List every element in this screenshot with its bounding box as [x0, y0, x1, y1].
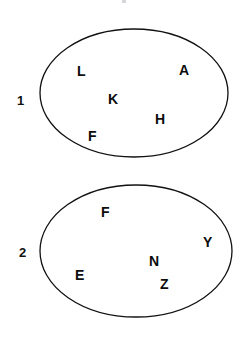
set-1-member-h: H [155, 112, 165, 126]
set-1-member-a: A [179, 63, 189, 77]
set-2-member-e: E [75, 268, 84, 282]
set-1-label: 1 [17, 94, 24, 107]
set-2-outline [40, 185, 232, 317]
set-1-member-f: F [88, 129, 97, 143]
set-2-member-n: N [149, 254, 159, 268]
set-1-member-k: K [108, 92, 118, 106]
set-2-member-y: Y [203, 235, 212, 249]
set-2-label: 2 [19, 246, 26, 259]
set-outlines [0, 0, 248, 341]
set-1-member-l: L [77, 64, 86, 78]
top-edge-artifact [122, 0, 126, 3]
set-diagram-canvas: 1 2 L A K H F F Y N E Z [0, 0, 248, 341]
set-2-member-f: F [101, 205, 110, 219]
set-2-member-z: Z [160, 277, 169, 291]
set-1-outline [40, 29, 228, 157]
